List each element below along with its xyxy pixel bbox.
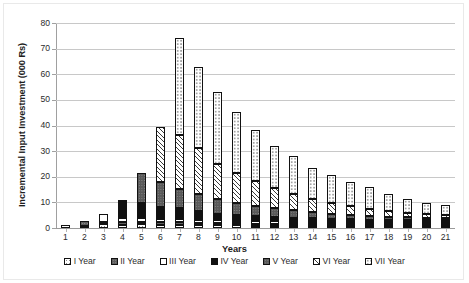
bar-segment[interactable]	[175, 38, 184, 135]
x-tick-label: 9	[208, 233, 227, 242]
bar-segment[interactable]	[213, 214, 222, 221]
legend-item[interactable]: IV Year	[211, 257, 248, 266]
bar-segment[interactable]	[213, 92, 222, 163]
bar-segment[interactable]	[365, 209, 374, 216]
bar-segment[interactable]	[270, 226, 279, 228]
bar-stack[interactable]	[384, 194, 393, 228]
bar-stack[interactable]	[80, 221, 89, 228]
bar-segment[interactable]	[346, 226, 355, 228]
bar-segment[interactable]	[156, 225, 165, 228]
bar-stack[interactable]	[270, 146, 279, 228]
bar-stack[interactable]	[441, 205, 450, 228]
bar-segment[interactable]	[137, 224, 146, 228]
bar-segment[interactable]	[365, 187, 374, 209]
bar-segment[interactable]	[327, 203, 336, 214]
bar-segment[interactable]	[270, 146, 279, 188]
bar-segment[interactable]	[175, 208, 184, 219]
bar-segment[interactable]	[194, 67, 203, 148]
bar-stack[interactable]	[175, 38, 184, 228]
bar-segment[interactable]	[270, 188, 279, 208]
bar-segment[interactable]	[346, 206, 355, 215]
legend-item[interactable]: II Year	[111, 257, 145, 266]
bar-stack[interactable]	[346, 182, 355, 228]
bar-segment[interactable]	[175, 135, 184, 189]
bar-stack[interactable]	[308, 168, 317, 228]
bar-segment[interactable]	[80, 226, 89, 228]
bar-segment[interactable]	[232, 225, 241, 228]
bar-segment[interactable]	[118, 225, 127, 228]
bar-segment[interactable]	[365, 226, 374, 228]
bar-segment[interactable]	[270, 208, 279, 217]
bar-segment[interactable]	[137, 203, 146, 218]
bar-segment[interactable]	[61, 225, 70, 228]
bar-stack[interactable]	[289, 156, 298, 228]
bar-stack[interactable]	[327, 175, 336, 228]
bar-segment[interactable]	[384, 194, 393, 211]
bar-segment[interactable]	[213, 225, 222, 228]
bar-stack[interactable]	[251, 130, 260, 228]
bar-segment[interactable]	[327, 226, 336, 228]
bar-segment[interactable]	[194, 194, 203, 211]
y-tick-label: 70	[20, 44, 50, 53]
legend-item[interactable]: VII Year	[365, 257, 405, 266]
bar-segment[interactable]	[308, 199, 317, 212]
bar-segment[interactable]	[289, 226, 298, 228]
legend-swatch	[64, 258, 71, 265]
bar-segment[interactable]	[251, 181, 260, 205]
bar-segment[interactable]	[289, 194, 298, 210]
bar-stack[interactable]	[422, 203, 431, 228]
legend-item[interactable]: VI Year	[313, 257, 350, 266]
bar-segment[interactable]	[213, 199, 222, 214]
bar-segment[interactable]	[308, 168, 317, 199]
bar-stack[interactable]	[99, 214, 108, 228]
bar-stack[interactable]	[232, 112, 241, 228]
bar-stack[interactable]	[137, 173, 146, 228]
bar-segment[interactable]	[384, 226, 393, 228]
bar-stack[interactable]	[403, 199, 412, 228]
bar-stack[interactable]	[156, 127, 165, 228]
bar-segment[interactable]	[175, 189, 184, 208]
legend-item[interactable]: III Year	[160, 257, 196, 266]
bar-segment[interactable]	[99, 224, 108, 228]
bar-segment[interactable]	[194, 211, 203, 219]
bar-segment[interactable]	[232, 112, 241, 172]
bar-segment[interactable]	[156, 127, 165, 182]
bar-segment[interactable]	[308, 226, 317, 228]
bar-stack[interactable]	[213, 92, 222, 228]
bar-segment[interactable]	[327, 175, 336, 203]
bar-segment[interactable]	[403, 226, 412, 228]
bar-stack[interactable]	[194, 67, 203, 228]
bar-segment[interactable]	[156, 182, 165, 207]
bar-segment[interactable]	[289, 210, 298, 218]
bar-segment[interactable]	[175, 225, 184, 228]
bar-segment[interactable]	[99, 214, 108, 222]
bar-segment[interactable]	[194, 148, 203, 195]
bar-segment[interactable]	[422, 226, 431, 228]
x-tick-label: 12	[265, 233, 284, 242]
bar-segment[interactable]	[118, 200, 127, 219]
bar-segment[interactable]	[422, 203, 431, 214]
bar-segment[interactable]	[403, 199, 412, 213]
legend-item[interactable]: I Year	[64, 257, 95, 266]
bar-segment[interactable]	[156, 207, 165, 219]
bar-segment[interactable]	[232, 203, 241, 215]
bar-segment[interactable]	[194, 225, 203, 228]
legend-item[interactable]: V Year	[263, 257, 298, 266]
bar-segment[interactable]	[441, 205, 450, 214]
bar-segment[interactable]	[251, 130, 260, 181]
y-tick-label: 10	[20, 198, 50, 207]
bar-segment[interactable]	[289, 156, 298, 194]
bar-segment[interactable]	[137, 173, 146, 203]
bar-segment[interactable]	[251, 226, 260, 228]
bar-segment[interactable]	[213, 164, 222, 199]
bar-stack[interactable]	[61, 225, 70, 228]
legend-label: III Year	[169, 257, 196, 266]
bar-segment[interactable]	[232, 173, 241, 204]
bar-segment[interactable]	[441, 226, 450, 228]
legend-label: II Year	[120, 257, 144, 266]
bar-stack[interactable]	[118, 200, 127, 228]
x-tick-label: 8	[189, 233, 208, 242]
bar-stack[interactable]	[365, 187, 374, 228]
bar-segment[interactable]	[251, 206, 260, 216]
bar-segment[interactable]	[346, 182, 355, 206]
